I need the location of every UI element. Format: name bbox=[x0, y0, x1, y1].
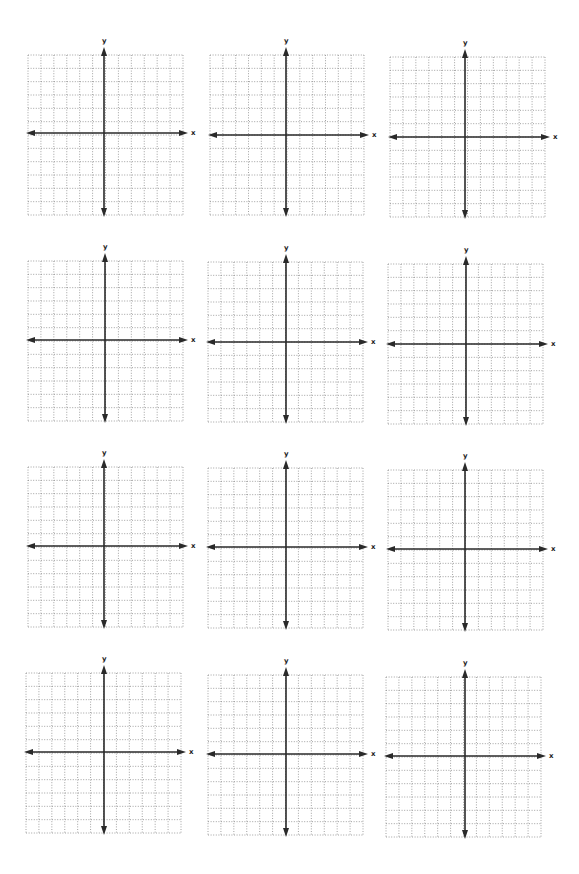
arrowhead-icon bbox=[462, 830, 468, 839]
arrowhead-icon bbox=[537, 753, 546, 759]
coordinate-plane bbox=[0, 0, 579, 874]
arrowhead-icon bbox=[462, 669, 468, 678]
y-axis-label: y bbox=[463, 660, 468, 667]
grid-lines bbox=[386, 677, 541, 837]
arrowhead-icon bbox=[384, 753, 393, 759]
x-axis-label: x bbox=[549, 753, 554, 760]
